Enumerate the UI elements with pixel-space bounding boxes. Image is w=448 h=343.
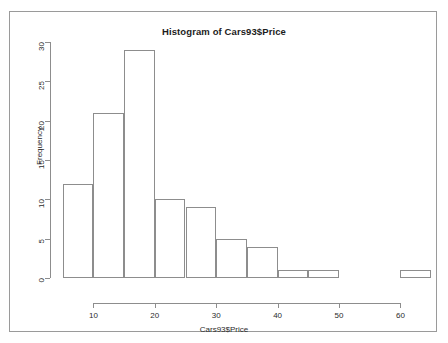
screenshot-root: Histogram of Cars93$Price 051015202530 1…	[0, 0, 448, 343]
x-tick-label: 30	[204, 311, 228, 320]
x-axis-line	[94, 303, 401, 304]
x-tick-label: 50	[327, 311, 351, 320]
histogram-bar	[308, 270, 339, 278]
x-tick-label: 10	[81, 311, 105, 320]
x-tick-mark	[216, 303, 217, 308]
histogram-bar	[278, 270, 309, 278]
y-tick-label-text: 30	[38, 42, 46, 51]
x-tick-mark	[339, 303, 340, 308]
x-tick-mark	[400, 303, 401, 308]
histogram-bar	[247, 247, 278, 278]
x-tick-label: 40	[266, 311, 290, 320]
y-tick-label: 0	[28, 278, 42, 279]
x-tick-mark	[93, 303, 94, 308]
y-axis-title: Frequency	[36, 127, 44, 165]
x-axis-title: Cars93$Price	[10, 325, 438, 334]
y-tick-label: 5	[28, 239, 42, 240]
histogram-bar	[186, 207, 217, 278]
y-tick-label: 20	[28, 121, 42, 122]
y-tick-label-text: 0	[38, 278, 46, 282]
x-tick-mark	[155, 303, 156, 308]
histogram-bar	[63, 184, 94, 278]
plot-area: 051015202530 102030405060 Frequency Cars…	[10, 12, 438, 333]
x-tick-label: 60	[388, 311, 412, 320]
x-tick-mark	[278, 303, 279, 308]
y-tick-label: 10	[28, 199, 42, 200]
plot-frame: Histogram of Cars93$Price 051015202530 1…	[9, 11, 437, 332]
y-tick-label-text: 5	[38, 239, 46, 243]
histogram-bar	[93, 113, 124, 278]
y-tick-label: 30	[28, 42, 42, 43]
histogram-bar	[124, 50, 155, 278]
x-tick-label: 20	[143, 311, 167, 320]
histogram-bar	[216, 239, 247, 278]
y-tick-label: 25	[28, 81, 42, 82]
histogram-bar	[400, 270, 431, 278]
y-tick-label-text: 25	[38, 81, 46, 90]
histogram-bar	[155, 199, 186, 278]
y-axis-line	[50, 42, 51, 278]
y-tick-label-text: 10	[38, 199, 46, 208]
